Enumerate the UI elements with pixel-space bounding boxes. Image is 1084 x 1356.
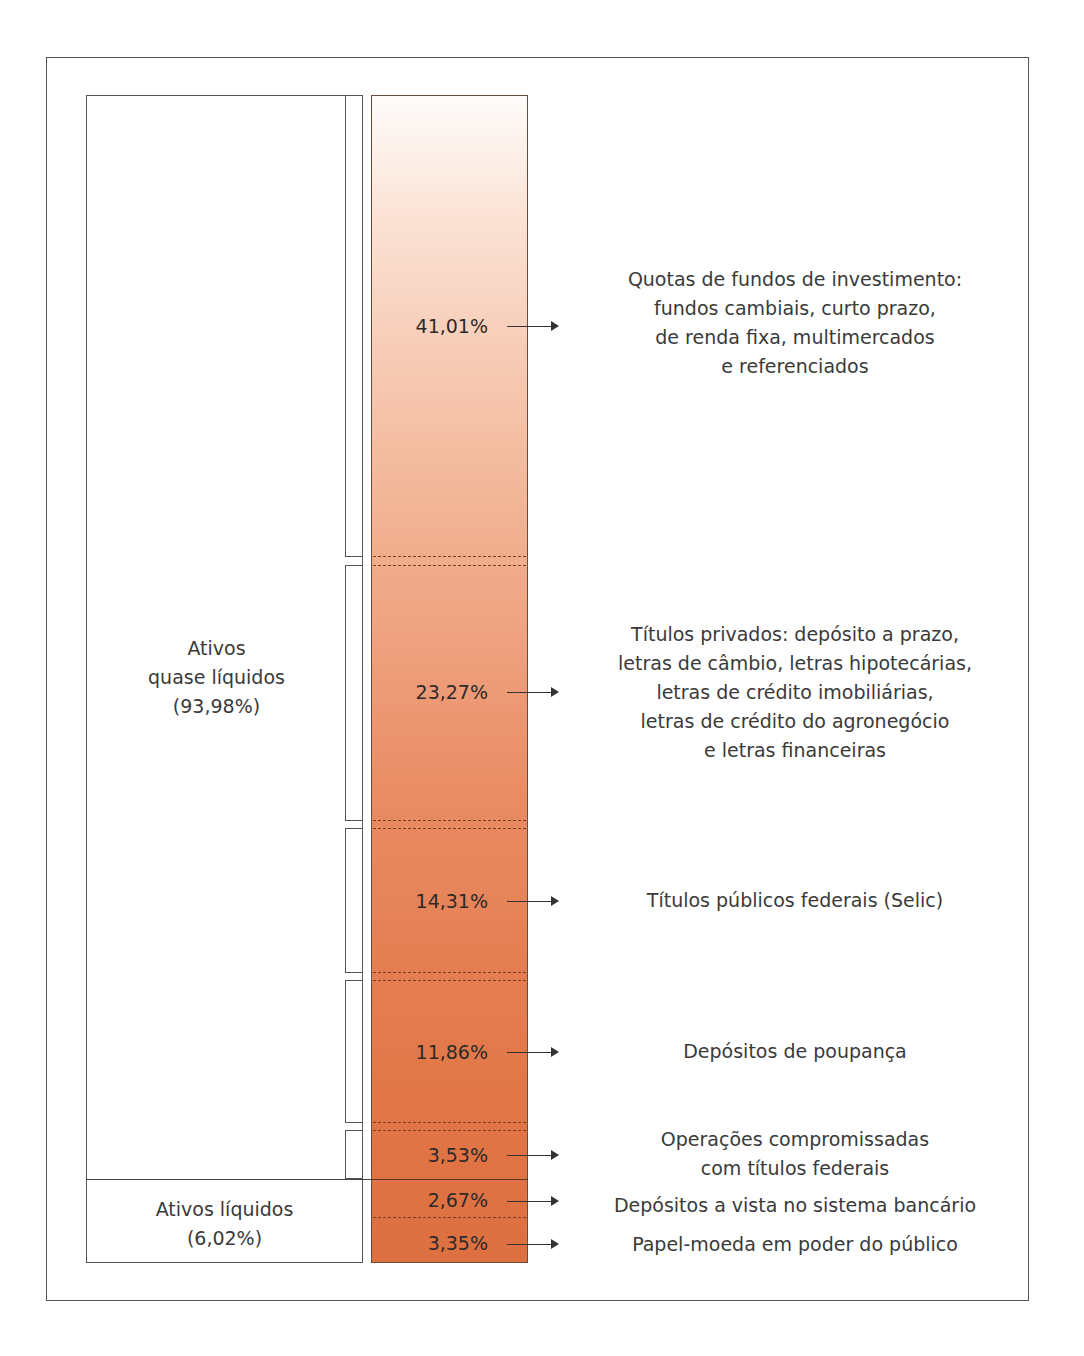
group-label-line: (6,02%) bbox=[88, 1224, 361, 1253]
segment-divider bbox=[373, 828, 526, 829]
bracket-segment bbox=[345, 980, 363, 1123]
pct-label: 3,53% bbox=[378, 1144, 488, 1166]
desc-line: Depósitos a vista no sistema bancário bbox=[580, 1191, 1010, 1220]
group-label-quase-liquidos: Ativos quase líquidos (93,98%) bbox=[88, 634, 345, 721]
desc-line: letras de crédito imobiliárias, bbox=[580, 678, 1010, 707]
group-boundary bbox=[371, 1179, 528, 1180]
segment-divider bbox=[373, 820, 526, 821]
segment-divider bbox=[373, 980, 526, 981]
desc-line: e letras financeiras bbox=[580, 736, 1010, 765]
item-description: Quotas de fundos de investimento: fundos… bbox=[580, 265, 1010, 381]
desc-line: com títulos federais bbox=[580, 1154, 1010, 1183]
desc-line: Papel-moeda em poder do público bbox=[580, 1230, 1010, 1259]
arrow-right-icon bbox=[507, 901, 555, 902]
segment-divider bbox=[373, 556, 526, 557]
pct-label: 23,27% bbox=[378, 681, 488, 703]
arrow-right-icon bbox=[507, 692, 555, 693]
desc-line: Operações compromissadas bbox=[580, 1125, 1010, 1154]
item-description: Títulos privados: depósito a prazo, letr… bbox=[580, 620, 1010, 765]
group-label-line: Ativos bbox=[88, 634, 345, 663]
group-label-liquidos: Ativos líquidos (6,02%) bbox=[88, 1195, 361, 1253]
desc-line: letras de câmbio, letras hipotecárias, bbox=[580, 649, 1010, 678]
group-divider bbox=[86, 1179, 371, 1180]
group-label-line: Ativos líquidos bbox=[88, 1195, 361, 1224]
pct-label: 2,67% bbox=[378, 1189, 488, 1211]
group-label-line: (93,98%) bbox=[88, 692, 345, 721]
stacked-bar bbox=[371, 95, 528, 1263]
bracket-segment bbox=[345, 1130, 363, 1179]
arrow-right-icon bbox=[507, 1155, 555, 1156]
bracket-segment bbox=[345, 828, 363, 973]
desc-line: fundos cambiais, curto prazo, bbox=[580, 294, 1010, 323]
item-description: Papel-moeda em poder do público bbox=[580, 1230, 1010, 1259]
bracket-segment bbox=[345, 95, 363, 557]
desc-line: Títulos públicos federais (Selic) bbox=[580, 886, 1010, 915]
item-description: Operações compromissadas com títulos fed… bbox=[580, 1125, 1010, 1183]
item-description: Depósitos a vista no sistema bancário bbox=[580, 1191, 1010, 1220]
bracket-segment bbox=[345, 565, 363, 821]
desc-line: de renda fixa, multimercados bbox=[580, 323, 1010, 352]
desc-line: letras de crédito do agronegócio bbox=[580, 707, 1010, 736]
arrow-right-icon bbox=[507, 1052, 555, 1053]
arrow-right-icon bbox=[507, 1244, 555, 1245]
arrow-right-icon bbox=[507, 1201, 555, 1202]
segment-divider bbox=[373, 972, 526, 973]
item-description: Títulos públicos federais (Selic) bbox=[580, 886, 1010, 915]
desc-line: Títulos privados: depósito a prazo, bbox=[580, 620, 1010, 649]
segment-divider bbox=[373, 1122, 526, 1123]
desc-line: e referenciados bbox=[580, 352, 1010, 381]
item-description: Depósitos de poupança bbox=[580, 1037, 1010, 1066]
pct-label: 41,01% bbox=[378, 315, 488, 337]
segment-divider bbox=[373, 1130, 526, 1131]
desc-line: Quotas de fundos de investimento: bbox=[580, 265, 1010, 294]
arrow-right-icon bbox=[507, 326, 555, 327]
segment-divider bbox=[373, 1217, 526, 1218]
pct-label: 3,35% bbox=[378, 1232, 488, 1254]
desc-line: Depósitos de poupança bbox=[580, 1037, 1010, 1066]
pct-label: 14,31% bbox=[378, 890, 488, 912]
group-label-line: quase líquidos bbox=[88, 663, 345, 692]
segment-divider bbox=[373, 565, 526, 566]
pct-label: 11,86% bbox=[378, 1041, 488, 1063]
